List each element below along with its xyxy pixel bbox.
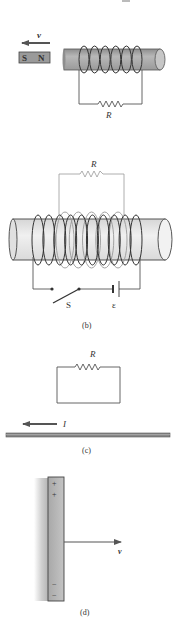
resistor-b: [80, 171, 103, 177]
figure-canvas: v S N R R: [0, 0, 187, 617]
magnet-north-pole: N: [38, 53, 45, 63]
plus-sign-2: +: [52, 490, 57, 499]
resistor-label-a: R: [105, 110, 112, 120]
panel-b: R: [9, 159, 172, 330]
current-label: I: [62, 419, 67, 429]
switch-label: S: [66, 300, 71, 310]
panel-a: v S N R: [19, 0, 165, 120]
secondary-circuit: [59, 171, 124, 215]
circuit-a: [79, 70, 142, 107]
magnet-south-pole: S: [22, 53, 27, 63]
caption-b: (b): [82, 321, 92, 330]
resistor-label-c: R: [89, 349, 96, 359]
resistor-a: [98, 101, 123, 107]
resistor-c: [75, 364, 100, 370]
caption-c: (c): [82, 446, 91, 455]
bar-magnet: S N: [19, 52, 50, 63]
battery: [113, 281, 119, 297]
caption-fragment-a: [122, 0, 130, 2]
panel-d: + + − − v (d): [34, 477, 122, 617]
plus-sign-1: +: [52, 479, 57, 488]
minus-sign-2: −: [52, 591, 57, 600]
minus-sign-1: −: [52, 580, 57, 589]
caption-d: (d): [80, 608, 90, 617]
resistor-label-b: R: [90, 159, 97, 169]
emf-label: ε: [112, 300, 116, 310]
straight-conductor: [6, 433, 170, 437]
iron-core-a: [63, 49, 166, 70]
velocity-label-d: v: [118, 547, 122, 556]
velocity-label-a: v: [37, 30, 42, 40]
plate-motion-blur: [34, 478, 49, 601]
loop-circuit-c: [57, 364, 120, 403]
panel-c: R I (c): [6, 349, 170, 455]
